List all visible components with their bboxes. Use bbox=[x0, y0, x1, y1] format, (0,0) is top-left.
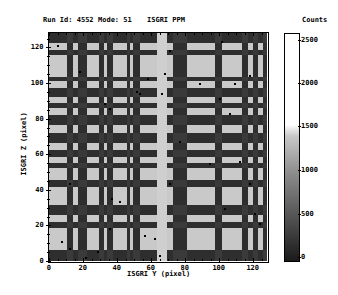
x-tick bbox=[185, 258, 186, 262]
heatmap-cell bbox=[222, 228, 242, 250]
heatmap-cell bbox=[78, 133, 87, 143]
heatmap-cell bbox=[78, 43, 87, 50]
dead-pixel bbox=[85, 257, 87, 259]
y-minor-tick bbox=[47, 101, 50, 102]
dead-pixel bbox=[154, 238, 156, 240]
heatmap-cell bbox=[222, 81, 242, 88]
heatmap-cell bbox=[222, 108, 242, 115]
y-minor-tick bbox=[47, 56, 50, 57]
y-tick bbox=[46, 83, 51, 84]
heatmap-cell bbox=[49, 55, 67, 77]
x-tick bbox=[185, 32, 186, 36]
y-minor-tick bbox=[47, 110, 50, 111]
colorbar-tick-label: 1500 bbox=[301, 122, 318, 130]
dead-pixel bbox=[79, 71, 81, 73]
x-tick bbox=[151, 258, 152, 262]
heatmap-cell bbox=[263, 250, 267, 261]
heatmap-cell bbox=[133, 150, 140, 157]
x-tick-label: 20 bbox=[79, 264, 87, 272]
heatmap-cell bbox=[87, 88, 99, 97]
heatmap-cell bbox=[215, 125, 222, 133]
dead-pixel bbox=[144, 235, 146, 237]
heatmap-cell bbox=[173, 115, 187, 125]
heatmap-cell bbox=[87, 228, 99, 250]
x-tick-label: 100 bbox=[212, 264, 225, 272]
heatmap-cell bbox=[113, 88, 127, 97]
dead-pixel bbox=[229, 113, 231, 115]
heatmap-cell bbox=[173, 150, 187, 157]
y-minor-tick bbox=[47, 199, 50, 200]
heatmap-cell bbox=[263, 125, 267, 133]
heatmap-cell bbox=[87, 180, 99, 187]
heatmap-cell bbox=[113, 150, 127, 157]
heatmap-cell bbox=[113, 115, 127, 125]
heatmap-cell bbox=[87, 168, 99, 180]
x-minor-tick bbox=[245, 33, 246, 35]
heatmap-cell bbox=[187, 115, 215, 125]
heatmap-cell bbox=[263, 81, 267, 88]
heatmap-cell bbox=[49, 115, 67, 125]
y-minor-tick bbox=[47, 181, 50, 182]
heatmap-cell bbox=[187, 125, 215, 133]
heatmap-cell bbox=[263, 143, 267, 150]
heatmap-cell bbox=[87, 33, 99, 43]
y-minor-tick bbox=[47, 208, 50, 209]
heatmap-cell bbox=[215, 115, 222, 125]
dead-pixel bbox=[164, 73, 166, 75]
y-minor-tick bbox=[47, 65, 50, 66]
colorbar-tick-label: 2500 bbox=[301, 36, 318, 44]
dead-pixel bbox=[69, 183, 71, 185]
x-minor-tick bbox=[143, 33, 144, 35]
x-minor-tick bbox=[92, 33, 93, 35]
y-minor-tick bbox=[47, 145, 50, 146]
x-minor-tick bbox=[143, 259, 144, 261]
heatmap-cell bbox=[173, 180, 187, 187]
x-tick bbox=[117, 258, 118, 262]
x-tick bbox=[219, 32, 220, 36]
heatmap-cell bbox=[222, 143, 242, 150]
x-minor-tick bbox=[66, 33, 67, 35]
heatmap-cell bbox=[87, 215, 99, 222]
heatmap-cell bbox=[263, 187, 267, 205]
x-minor-tick bbox=[202, 259, 203, 261]
heatmap-cell bbox=[173, 215, 187, 222]
x-minor-tick bbox=[109, 259, 110, 261]
heatmap-cell bbox=[215, 55, 222, 77]
heatmap-cell bbox=[87, 108, 99, 115]
heatmap-cell bbox=[222, 150, 242, 157]
heatmap-cell bbox=[133, 108, 140, 115]
dead-pixel bbox=[199, 83, 201, 85]
y-tick bbox=[46, 119, 51, 120]
y-minor-tick bbox=[47, 74, 50, 75]
heatmap-cell bbox=[222, 215, 242, 222]
heatmap-cell bbox=[263, 228, 267, 250]
colorbar-tick-label: 500 bbox=[301, 210, 314, 218]
mode-label: Mode: 51 bbox=[98, 16, 132, 24]
heatmap-cell bbox=[173, 125, 187, 133]
colorbar-tick-label: 2000 bbox=[301, 79, 318, 87]
x-minor-tick bbox=[75, 33, 76, 35]
heatmap-cell bbox=[133, 125, 140, 133]
heatmap-cell bbox=[133, 187, 140, 205]
heatmap-cell bbox=[113, 43, 127, 50]
x-minor-tick bbox=[236, 259, 237, 261]
heatmap-cell bbox=[133, 205, 140, 215]
y-minor-tick bbox=[47, 234, 50, 235]
heatmap-cell bbox=[78, 81, 87, 88]
y-minor-tick bbox=[47, 39, 50, 40]
heatmap-cell bbox=[173, 81, 187, 88]
heatmap-cell bbox=[215, 180, 222, 187]
heatmap-cell bbox=[87, 205, 99, 215]
heatmap-cell bbox=[113, 168, 127, 180]
heatmap-cell bbox=[187, 180, 215, 187]
x-minor-tick bbox=[228, 259, 229, 261]
heatmap-cell bbox=[78, 143, 87, 150]
heatmap-cell bbox=[215, 143, 222, 150]
heatmap-cell bbox=[222, 180, 242, 187]
heatmap-cell bbox=[113, 215, 127, 222]
x-minor-tick bbox=[160, 259, 161, 261]
heatmap-cell bbox=[49, 125, 67, 133]
heatmap-cell bbox=[133, 43, 140, 50]
heatmap-cell bbox=[215, 88, 222, 97]
x-minor-tick bbox=[134, 259, 135, 261]
